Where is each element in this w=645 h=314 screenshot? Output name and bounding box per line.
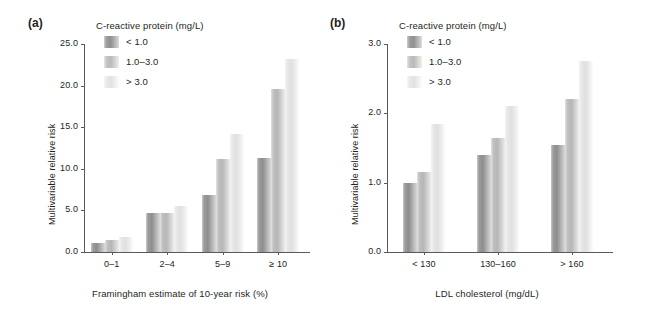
panel-b-legend-label-0: < 1.0 (429, 36, 451, 47)
panel-a-y-axis-line (84, 44, 85, 252)
panel-a-x-tick-label-3: ≥ 10 (238, 259, 318, 269)
legend-swatch-1to3 (407, 56, 422, 68)
panel-b-x-tick-label-1: 130–160 (458, 259, 538, 269)
panel-a-bar-2-2 (230, 134, 244, 252)
panel-a-bar-0-2 (119, 237, 133, 252)
panel-b-x-tick-0 (424, 252, 425, 255)
legend-swatch-gt3 (104, 76, 119, 88)
panel-a-bar-3-2 (285, 59, 299, 252)
panel-a-legend-label-0: < 1.0 (126, 36, 148, 47)
panel-b-bar-2-2 (579, 61, 593, 252)
panel-a-label: (a) (28, 16, 43, 30)
panel-a-bar-2-0 (202, 195, 216, 252)
panel-a-bar-1-2 (174, 206, 188, 252)
panel-a-y-tick-label-4: 20.0 (42, 80, 78, 90)
panel-a-y-tick-label-0: 0.0 (42, 246, 78, 256)
panel-a-legend-label-1: 1.0–3.0 (126, 56, 158, 67)
panel-a-bar-0-0 (91, 243, 105, 252)
panel-b-bar-0-1 (417, 172, 431, 252)
panel-a-y-tick-2 (81, 169, 84, 170)
panel-b-bar-0-2 (431, 124, 445, 252)
panel-a-bar-2-1 (216, 159, 230, 252)
panel-a-y-tick-label-1: 5.0 (42, 204, 78, 214)
panel-b-y-tick-1 (384, 183, 387, 184)
panel-b-bar-0-0 (403, 183, 417, 252)
panel-b-x-tick-1 (498, 252, 499, 255)
panel-a-x-tick-3 (278, 252, 279, 255)
panel-b-x-axis-line (387, 252, 613, 253)
panel-b: (b) Multivariable relative risk 0.01.02.… (322, 0, 645, 314)
panel-a-x-axis-title: Framingham estimate of 10-year risk (%) (50, 288, 310, 299)
panel-a-bar-3-0 (257, 158, 271, 252)
panel-b-x-axis-title: LDL cholesterol (mg/dL) (357, 288, 617, 299)
panel-b-bar-1-1 (491, 138, 505, 252)
panel-a-y-tick-0 (81, 252, 84, 253)
legend-swatch-1to3 (104, 56, 119, 68)
panel-b-y-tick-label-0: 0.0 (345, 246, 381, 256)
panel-b-legend-label-2: > 3.0 (429, 76, 451, 87)
panel-b-y-tick-2 (384, 113, 387, 114)
panel-b-bar-1-2 (505, 106, 519, 252)
panel-b-y-tick-3 (384, 44, 387, 45)
panel-b-bar-2-1 (565, 99, 579, 252)
panel-a-y-tick-3 (81, 127, 84, 128)
panel-a-x-axis-line (84, 252, 310, 253)
panel-a: (a) Multivariable relative risk 0.05.010… (0, 0, 322, 314)
panel-a-bar-1-1 (160, 213, 174, 252)
panel-b-bar-1-0 (477, 155, 491, 252)
panel-a-bar-0-1 (105, 240, 119, 252)
panel-b-legend-label-1: 1.0–3.0 (429, 56, 461, 67)
panel-a-y-tick-1 (81, 210, 84, 211)
panel-b-x-tick-label-2: > 160 (532, 259, 612, 269)
figure-root: (a) Multivariable relative risk 0.05.010… (0, 0, 645, 314)
panel-a-y-tick-label-2: 10.0 (42, 163, 78, 173)
panel-b-x-tick-label-0: < 130 (384, 259, 464, 269)
panel-b-y-tick-label-2: 2.0 (345, 107, 381, 117)
panel-a-y-tick-5 (81, 44, 84, 45)
panel-b-bar-2-0 (551, 145, 565, 252)
panel-b-label: (b) (330, 16, 345, 30)
legend-swatch-lt1 (407, 36, 422, 48)
panel-b-y-tick-label-3: 3.0 (345, 38, 381, 48)
panel-a-legend-title: C-reactive protein (mg/L) (96, 20, 204, 31)
panel-b-legend-title: C-reactive protein (mg/L) (399, 20, 507, 31)
panel-b-y-tick-label-1: 1.0 (345, 177, 381, 187)
panel-a-bar-1-0 (146, 213, 160, 252)
legend-swatch-gt3 (407, 76, 422, 88)
panel-a-legend-label-2: > 3.0 (126, 76, 148, 87)
panel-b-y-axis-line (387, 44, 388, 252)
panel-a-y-tick-label-5: 25.0 (42, 38, 78, 48)
panel-a-x-tick-1 (167, 252, 168, 255)
panel-a-bar-3-1 (271, 89, 285, 252)
panel-b-y-axis-title: Multivariable relative risk (350, 124, 360, 225)
panel-a-x-tick-0 (112, 252, 113, 255)
panel-b-x-tick-2 (572, 252, 573, 255)
panel-a-y-tick-label-3: 15.0 (42, 121, 78, 131)
panel-a-y-tick-4 (81, 86, 84, 87)
legend-swatch-lt1 (104, 36, 119, 48)
panel-b-y-tick-0 (384, 252, 387, 253)
panel-a-x-tick-2 (223, 252, 224, 255)
